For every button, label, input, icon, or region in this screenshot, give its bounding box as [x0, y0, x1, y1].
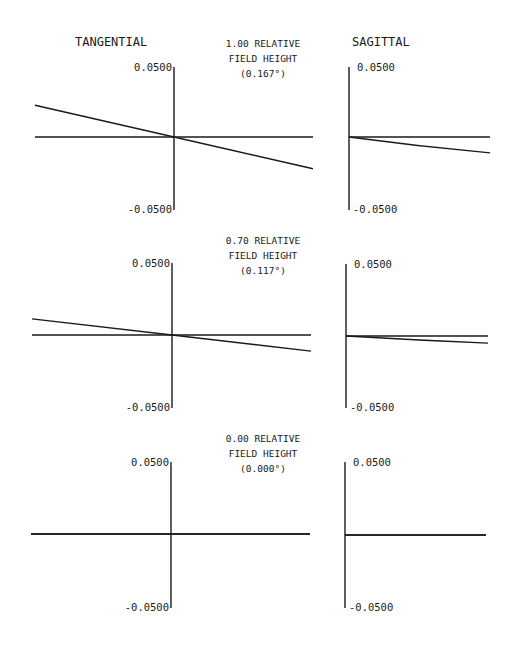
- sagittal-curve: [346, 336, 488, 343]
- field-blocks: 1.00 RELATIVEFIELD HEIGHT(0.167°)0.0500-…: [31, 38, 490, 613]
- field-label-line3: (0.117°): [240, 265, 286, 276]
- field-label-line1: 0.70 RELATIVE: [226, 235, 301, 246]
- sagittal-bottom-tick: -0.0500: [350, 401, 394, 413]
- ray-fan-chart: TANGENTIAL SAGITTAL 1.00 RELATIVEFIELD H…: [0, 0, 513, 657]
- sagittal-top-tick: 0.0500: [353, 456, 391, 468]
- sagittal-bottom-tick: -0.0500: [349, 601, 393, 613]
- field-label-line3: (0.167°): [240, 68, 286, 79]
- field-block-2: 0.00 RELATIVEFIELD HEIGHT(0.000°)0.0500-…: [31, 433, 486, 613]
- sagittal-top-tick: 0.0500: [354, 258, 392, 270]
- sagittal-top-tick: 0.0500: [357, 61, 395, 73]
- tangential-top-tick: 0.0500: [134, 61, 172, 73]
- sagittal-curve: [349, 137, 490, 153]
- field-label-line2: FIELD HEIGHT: [229, 448, 298, 459]
- tangential-bottom-tick: -0.0500: [125, 601, 169, 613]
- field-label-line3: (0.000°): [240, 463, 286, 474]
- tangential-top-tick: 0.0500: [131, 456, 169, 468]
- field-label-line2: FIELD HEIGHT: [229, 250, 298, 261]
- field-label-line2: FIELD HEIGHT: [229, 53, 298, 64]
- field-label-line1: 1.00 RELATIVE: [226, 38, 301, 49]
- field-block-0: 1.00 RELATIVEFIELD HEIGHT(0.167°)0.0500-…: [35, 38, 490, 215]
- tangential-bottom-tick: -0.0500: [128, 203, 172, 215]
- tangential-bottom-tick: -0.0500: [126, 401, 170, 413]
- tangential-header: TANGENTIAL: [75, 35, 147, 49]
- field-block-1: 0.70 RELATIVEFIELD HEIGHT(0.117°)0.0500-…: [32, 235, 488, 413]
- tangential-top-tick: 0.0500: [132, 257, 170, 269]
- sagittal-bottom-tick: -0.0500: [353, 203, 397, 215]
- sagittal-header: SAGITTAL: [352, 35, 410, 49]
- field-label-line1: 0.00 RELATIVE: [226, 433, 301, 444]
